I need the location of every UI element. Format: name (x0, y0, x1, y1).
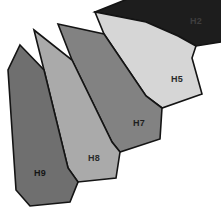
polygon-label-h2: H2 (190, 16, 202, 26)
polygon-label-h8: H8 (88, 153, 100, 163)
polygon-fan-figure: H2H5H7H8H9 (0, 0, 221, 223)
polygon-label-h9: H9 (34, 168, 46, 178)
figure-canvas: H2H5H7H8H9 (0, 0, 221, 223)
polygon-label-h7: H7 (133, 118, 145, 128)
polygon-label-h5: H5 (171, 74, 183, 84)
